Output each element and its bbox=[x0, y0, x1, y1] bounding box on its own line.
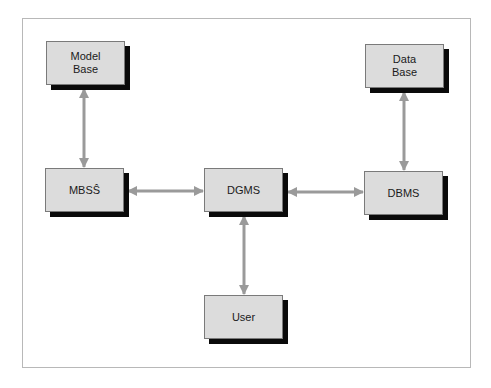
node-label: Data Base bbox=[392, 53, 417, 79]
node-label: User bbox=[232, 311, 255, 324]
node-label: DGMS bbox=[227, 184, 260, 197]
box-face: DGMS bbox=[204, 168, 283, 212]
box-face: DBMS bbox=[364, 171, 443, 215]
box-face: Model Base bbox=[46, 41, 125, 85]
node-dbms: DBMS bbox=[364, 171, 443, 215]
node-mbss: MBSŜ bbox=[45, 168, 124, 212]
box-face: Data Base bbox=[365, 44, 444, 88]
node-model-base: Model Base bbox=[46, 41, 125, 85]
node-label: Model Base bbox=[71, 50, 101, 76]
box-face: MBSŜ bbox=[45, 168, 124, 212]
node-label: MBSŜ bbox=[69, 184, 100, 197]
node-user: User bbox=[204, 295, 283, 339]
box-face: User bbox=[204, 295, 283, 339]
node-data-base: Data Base bbox=[365, 44, 444, 88]
node-dgms: DGMS bbox=[204, 168, 283, 212]
node-label: DBMS bbox=[388, 187, 420, 200]
